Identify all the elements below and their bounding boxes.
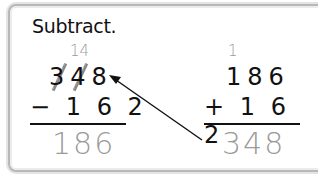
arrow-icon bbox=[0, 0, 318, 180]
